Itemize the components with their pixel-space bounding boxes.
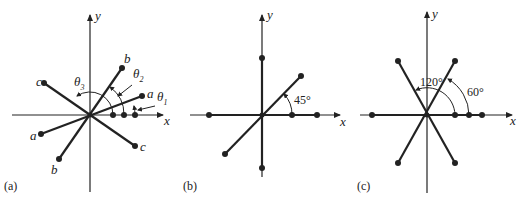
panel-c: x y 60° 120° (c) [357, 6, 516, 193]
angle-label-120: 120° [420, 75, 443, 89]
label-c-neg: c [140, 139, 146, 154]
label-b-neg: b [51, 162, 58, 177]
dot-a-neg [38, 131, 44, 137]
panel-a: x y a a b b c c θ1 θ2 θ3 (a) [4, 8, 170, 193]
dot-right-3 [479, 112, 485, 118]
dot-top [259, 55, 265, 61]
figure: x y a a b b c c θ1 θ2 θ3 (a) [0, 0, 527, 205]
x-axis-label: x [339, 114, 346, 129]
dot-left [206, 112, 212, 118]
origin-dot [260, 113, 265, 118]
caption-a: (a) [4, 179, 17, 193]
angle-label-45: 45° [294, 93, 311, 107]
label-c-pos: c [36, 74, 42, 89]
origin-dot [425, 113, 430, 118]
dot-c-pos [41, 80, 47, 86]
dot-bottom [259, 165, 265, 171]
origin-dot [88, 113, 93, 118]
panel-b: x y 45° (b) [183, 7, 346, 193]
dot-lower-right [452, 160, 458, 166]
y-axis-label: y [265, 7, 273, 22]
x-axis-label: x [163, 113, 170, 128]
dot-upper-right [452, 58, 458, 64]
caption-b: (b) [183, 179, 197, 193]
angle-label-60: 60° [467, 85, 484, 99]
label-theta3: θ3 [74, 74, 84, 92]
y-axis-label: y [430, 6, 438, 21]
dot-c-neg [132, 143, 138, 149]
x-axis-label: x [509, 113, 516, 128]
angle-arc-theta2 [110, 87, 124, 115]
dot-diag-top [298, 73, 304, 79]
leader-theta2 [118, 85, 132, 96]
dot-diag-bottom [222, 151, 228, 157]
label-a-neg: a [30, 128, 37, 143]
figure-svg: x y a a b b c c θ1 θ2 θ3 (a) [0, 0, 527, 205]
dot-lower-left [395, 160, 401, 166]
leader-theta1 [138, 106, 155, 110]
angle-arc-60 [448, 79, 469, 115]
caption-c: (c) [357, 179, 370, 193]
y-axis-label: y [93, 8, 101, 23]
angle-arc-45 [284, 94, 292, 115]
angle-arc-120 [416, 88, 455, 115]
dot-a-pos [139, 93, 145, 99]
label-a-pos: a [147, 86, 154, 101]
label-theta1: θ1 [157, 89, 167, 107]
angle-arc-theta3 [77, 92, 113, 115]
dot-upper-left [395, 58, 401, 64]
dot-right-2 [314, 112, 320, 118]
dot-left [369, 112, 375, 118]
label-b-pos: b [124, 51, 131, 66]
label-theta2: θ2 [133, 66, 143, 84]
